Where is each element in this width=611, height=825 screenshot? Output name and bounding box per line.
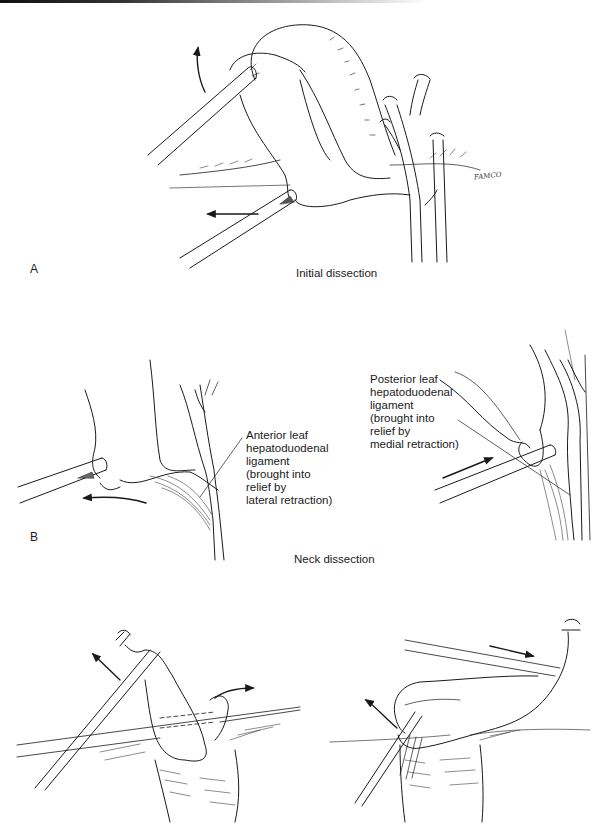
posterior-leaf-label: Posterior leaf hepatoduodenal ligament (… — [370, 373, 459, 451]
panel-a-drawing — [148, 25, 480, 268]
anterior-leaf-label: Anterior leaf hepatoduodenal ligament (b… — [246, 429, 332, 507]
panel-b-caption: Neck dissection — [294, 553, 375, 565]
panel-c-left-drawing — [17, 630, 300, 822]
panel-c-right-drawing — [330, 619, 590, 822]
panel-b-left-drawing — [18, 360, 242, 560]
panel-a-caption: Initial dissection — [296, 267, 377, 279]
panel-b-letter: B — [30, 530, 38, 544]
panel-a-letter: A — [30, 262, 38, 276]
illustration-canvas — [0, 0, 611, 825]
